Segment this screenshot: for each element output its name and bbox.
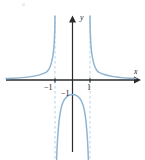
graph-figure: a y x −1 1 −1	[0, 0, 145, 160]
curve-left-branch	[6, 16, 55, 79]
y-tick-label-neg-one: −1	[61, 90, 70, 98]
x-tick-label-neg-one: −1	[44, 84, 53, 92]
x-tick-label-pos-one: 1	[87, 84, 91, 92]
x-axis-label: x	[134, 68, 138, 76]
y-axis-arrowhead	[69, 16, 76, 23]
x-axis-arrowhead	[134, 76, 141, 83]
y-axis-label: y	[80, 14, 84, 22]
plot-canvas	[0, 0, 145, 160]
curve-right-branch	[90, 16, 136, 79]
